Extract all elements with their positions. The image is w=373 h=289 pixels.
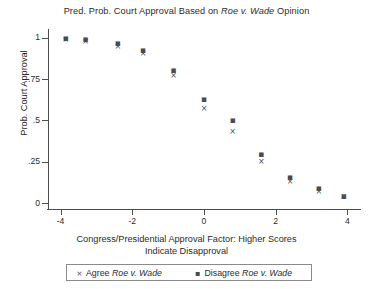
data-point-disagree: ▪ [258, 149, 264, 158]
legend-label-agree-case-name: Roe v. Wade [112, 268, 162, 278]
chart-title-after: Opinion [274, 6, 309, 16]
chart-title-case-name: Roe v. Wade [221, 6, 274, 16]
x-tick-label: 4 [327, 217, 367, 226]
x-axis-title-line1: Congress/Presidential Approval Factor: H… [0, 233, 373, 245]
x-tick-label: 0 [184, 217, 224, 226]
x-tick-label: -2 [112, 217, 152, 226]
data-point-disagree: ▪ [170, 65, 176, 74]
x-tick-mark [132, 210, 133, 215]
legend-label-disagree-prefix: Disagree [204, 268, 242, 278]
x-axis-title: Congress/Presidential Approval Factor: H… [0, 233, 373, 257]
chart-legend: × Agree Roe v. Wade ▪ Disagree Roe v. Wa… [66, 264, 312, 281]
y-axis-title: Prob. Court Approval [19, 13, 29, 173]
data-point-disagree: ▪ [63, 34, 69, 43]
data-point-disagree: ▪ [316, 184, 322, 193]
x-tick-mark [61, 210, 62, 215]
x-axis-title-line2: Indicate Disapproval [0, 245, 373, 257]
legend-marker-agree-icon: × [75, 269, 84, 278]
data-point-disagree: ▪ [287, 172, 293, 181]
x-tick-mark [204, 210, 205, 215]
chart-figure: Pred. Prob. Court Approval Based on Roe … [0, 0, 373, 289]
data-point-disagree: ▪ [341, 191, 347, 200]
legend-marker-disagree-icon: ▪ [193, 269, 202, 278]
data-point-agree: × [201, 105, 208, 113]
legend-item-disagree: ▪ Disagree Roe v. Wade [193, 268, 292, 278]
x-tick-label: -4 [41, 217, 81, 226]
x-tick-label: 2 [256, 217, 296, 226]
data-point-agree: × [229, 128, 236, 136]
x-tick-mark [276, 210, 277, 215]
data-point-disagree: ▪ [115, 39, 121, 48]
data-point-disagree: ▪ [230, 116, 236, 125]
plot-area [48, 31, 360, 209]
data-point-disagree: ▪ [83, 35, 89, 44]
data-point-disagree: ▪ [201, 94, 207, 103]
legend-label-disagree: Disagree Roe v. Wade [204, 268, 292, 278]
x-tick-mark [347, 210, 348, 215]
legend-item-agree: × Agree Roe v. Wade [75, 268, 162, 278]
data-point-disagree: ▪ [140, 46, 146, 55]
chart-title: Pred. Prob. Court Approval Based on Roe … [0, 6, 373, 16]
y-tick-label: 0 [0, 199, 40, 208]
data-point-agree: × [258, 158, 265, 166]
chart-title-before: Pred. Prob. Court Approval Based on [64, 6, 221, 16]
legend-label-disagree-case-name: Roe v. Wade [242, 268, 292, 278]
legend-label-agree-prefix: Agree [86, 268, 112, 278]
legend-label-agree: Agree Roe v. Wade [86, 268, 162, 278]
